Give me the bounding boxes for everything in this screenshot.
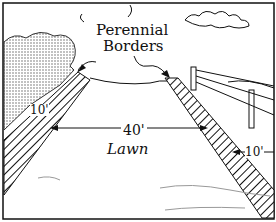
lawn-texture: [38, 177, 270, 210]
lawn-label: Lawn: [107, 142, 148, 157]
cloud: [185, 11, 249, 28]
perennial-label-line2: Borders: [103, 39, 164, 54]
horizon: [90, 78, 168, 84]
right-border-width-dimension: 10': [245, 146, 264, 158]
garden-layout-diagram: Perennial Borders 40' Lawn 10' 10': [0, 0, 276, 222]
lawn-width-dimension: 40': [121, 123, 147, 137]
left-border-width-dimension: 10': [30, 104, 49, 116]
perennial-label-line1: Perennial: [96, 23, 168, 38]
